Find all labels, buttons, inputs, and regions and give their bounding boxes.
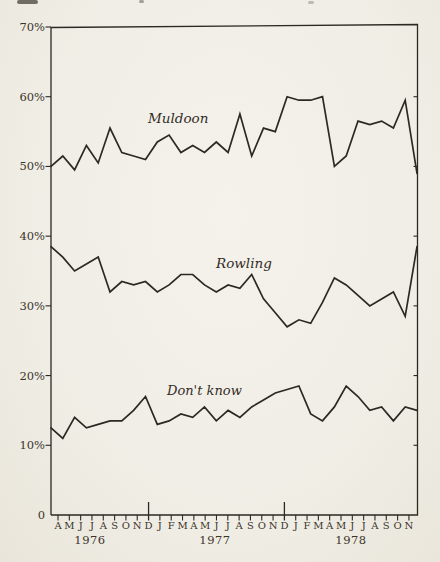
month-label: A [235,520,244,531]
month-label: M [336,520,346,531]
month-label: F [304,520,311,531]
month-label: M [200,520,210,531]
month-label: N [133,520,142,531]
month-label: F [168,520,175,531]
scanned-page: 010%20%30%40%50%60%70%AMJJASONDJFMAMJJAS… [0,0,440,562]
month-label: J [361,520,366,531]
month-label: J [78,520,83,531]
y-axis-label: 20% [19,369,45,383]
month-label: J [349,520,354,531]
month-label: A [53,520,62,531]
month-label: D [280,520,288,531]
month-label: A [189,520,198,531]
month-label: A [370,520,379,531]
month-label: J [89,520,94,531]
month-label: A [325,520,334,531]
y-axis-label: 30% [19,299,45,313]
series-label-don-t-know: Don't know [166,383,242,398]
series-label-muldoon: Muldoon [147,110,208,126]
y-axis-label: 60% [19,90,45,104]
year-label: 1977 [199,533,230,547]
month-label: O [393,520,401,531]
poll-line-chart: 010%20%30%40%50%60%70%AMJJASONDJFMAMJJAS… [0,0,440,562]
month-label: D [145,520,153,531]
month-label: A [99,520,108,531]
y-axis-label: 70% [19,20,45,34]
series-line-muldoon [51,97,417,174]
y-axis-label: 0 [38,508,45,522]
month-label: M [64,520,74,531]
y-axis-label: 50% [19,159,45,173]
month-label: J [213,520,218,531]
month-label: J [157,520,162,531]
month-label: M [177,520,187,531]
month-label: S [247,520,254,531]
year-label: 1978 [335,533,366,547]
y-axis-label: 10% [19,438,45,452]
month-label: J [293,520,298,531]
year-label: 1976 [74,533,105,547]
series-label-rowling: Rowling [215,255,272,271]
month-label: S [383,520,390,531]
month-label: N [405,520,414,531]
month-label: M [313,520,323,531]
month-label: N [269,520,278,531]
month-label: J [225,520,230,531]
month-label: O [122,520,130,531]
month-label: O [258,520,266,531]
y-axis-label: 40% [19,229,45,243]
month-label: S [111,520,118,531]
